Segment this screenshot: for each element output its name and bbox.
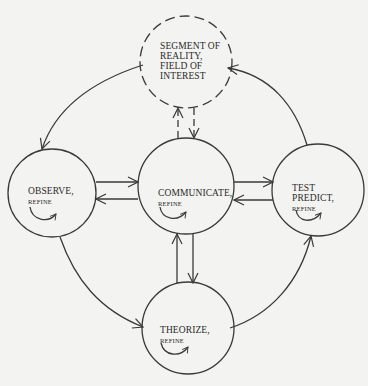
edge-theorize-to-test: [230, 236, 311, 328]
edge-segment-to-observe: [42, 65, 143, 149]
refine-loop-icon-theorize: [161, 343, 188, 354]
node-communicate-circle: [138, 138, 234, 234]
node-test-circle: [272, 144, 364, 236]
node-theorize-circle: [142, 282, 234, 374]
refine-loop-icon-observe: [30, 207, 56, 220]
edge-test-to-segment: [228, 68, 307, 145]
research-cycle-diagram: [0, 0, 368, 386]
refine-loop-icon-test: [296, 210, 321, 220]
edge-observe-to-theorize: [60, 237, 143, 327]
refine-loop-icon-communicate: [160, 207, 186, 218]
node-segment-circle: [140, 16, 232, 108]
node-observe-circle: [8, 149, 96, 237]
